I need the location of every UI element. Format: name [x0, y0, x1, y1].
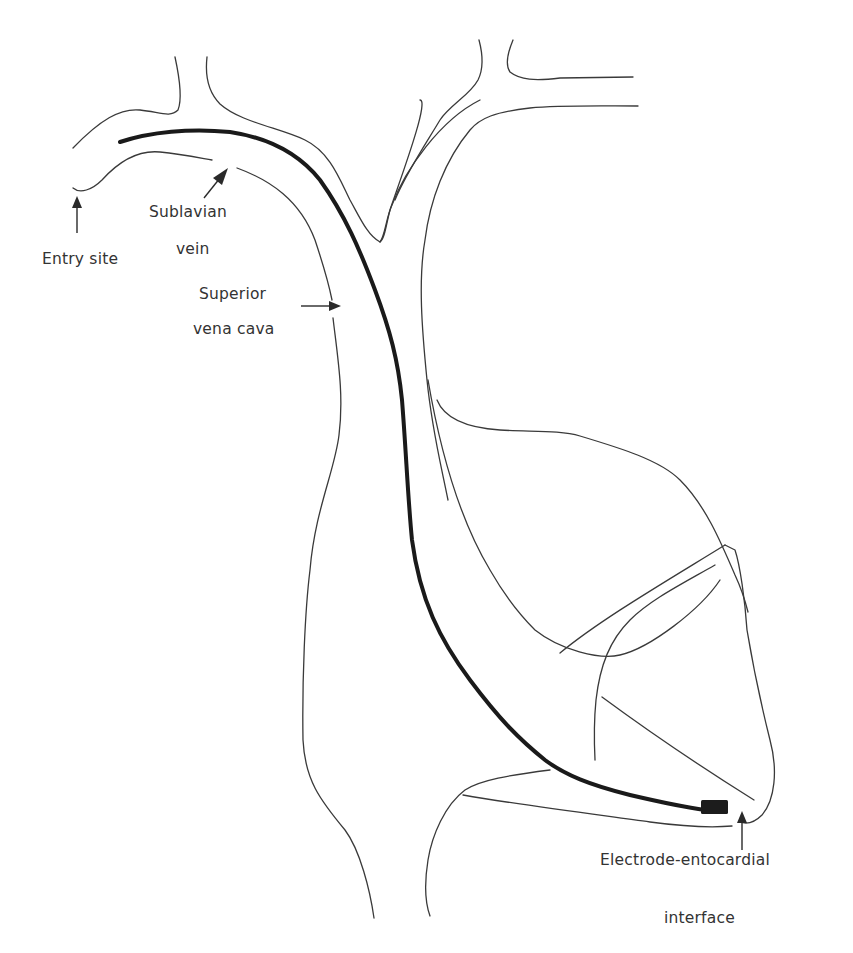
ventricle-septum-line	[594, 565, 715, 760]
label-svc-line1: Superior	[199, 287, 266, 303]
left-jugular-left-wall	[395, 40, 482, 200]
valve-plane-line	[463, 795, 732, 827]
label-electrode-line1: Electrode-entocardial	[600, 853, 770, 869]
ventricle-upper-edge	[560, 545, 725, 653]
arrow-up-icon	[72, 196, 82, 233]
brachiocephalic-right-wall	[380, 100, 480, 242]
ventricle-inner-wall	[602, 697, 754, 800]
subclavian-vein-lower-wall	[73, 152, 212, 191]
left-jugular-right-wall	[507, 40, 633, 80]
left-brachiocephalic-lower-wall	[421, 106, 638, 500]
label-entry-site: Entry site	[42, 252, 118, 268]
arrow-up-right-icon	[204, 168, 228, 198]
ventricle-outer-wall	[725, 545, 774, 823]
arrow-right-icon	[301, 301, 341, 311]
label-svc-line2: vena cava	[193, 322, 274, 338]
svc-left-wall-lower	[303, 318, 374, 918]
right-atrium-outline	[437, 400, 748, 612]
electrode-tip	[701, 800, 728, 814]
label-subclavian-vein-line2: vein	[176, 242, 210, 258]
anatomy-diagram	[0, 0, 853, 953]
label-electrode-line2: interface	[664, 911, 735, 927]
inferior-vena-cava-right-wall	[426, 770, 550, 916]
heart-inner-contour	[428, 380, 720, 656]
label-subclavian-vein-line1: Sublavian	[149, 205, 227, 221]
jugular-vein-right-wall	[206, 57, 422, 242]
svc-left-wall	[237, 168, 332, 300]
arrow-up-icon	[737, 811, 747, 850]
